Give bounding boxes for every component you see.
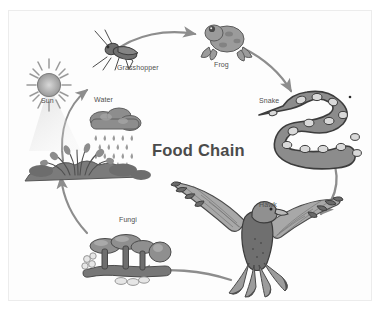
label-frog: Frog	[214, 61, 229, 68]
hawk-icon	[173, 171, 341, 299]
plants-icon	[23, 141, 153, 183]
mushroom-icon	[81, 229, 177, 289]
frog-icon	[199, 19, 257, 63]
page-title: Food Chain	[152, 141, 245, 160]
label-hawk: Hawk	[259, 201, 277, 208]
label-sun: Sun	[41, 97, 54, 104]
label-fungi: Fungi	[119, 216, 137, 223]
label-grasshopper: Grasshopper	[117, 64, 159, 71]
diagram-frame: Sun	[8, 10, 372, 301]
arrow-fungi-to-plants	[61, 177, 87, 233]
label-water: Water	[94, 96, 113, 103]
food-chain-diagram: Sun	[0, 0, 381, 312]
label-snake: Snake	[259, 97, 279, 104]
snake-icon	[257, 73, 373, 163]
